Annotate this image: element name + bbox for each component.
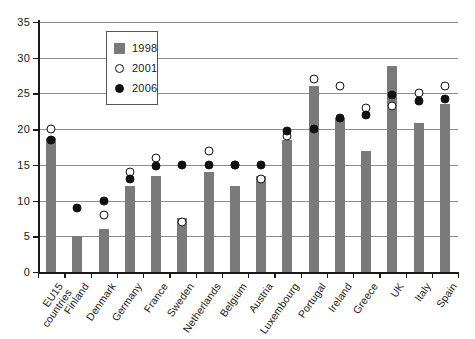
- filled-circle-marker: [388, 90, 397, 99]
- y-tick-mark: [33, 129, 38, 130]
- legend-item-1998: 1998: [114, 38, 151, 58]
- y-tick-mark: [33, 165, 38, 166]
- category-column: [327, 22, 353, 272]
- y-tick-label: 35: [17, 16, 30, 28]
- open-circle-marker: [178, 218, 187, 227]
- y-tick-label: 20: [17, 123, 30, 135]
- filled-circle-marker: [362, 110, 371, 119]
- legend-label: 2006: [132, 82, 157, 94]
- filled-circle-marker: [309, 125, 318, 134]
- open-circle-marker: [47, 125, 56, 134]
- category-column: [196, 22, 222, 272]
- category-column: [169, 22, 195, 272]
- bar: [335, 118, 345, 272]
- filled-circle-marker: [335, 114, 344, 123]
- bar: [256, 176, 266, 272]
- category-column: [222, 22, 248, 272]
- filled-circle-marker: [230, 160, 239, 169]
- y-tick-mark: [33, 93, 38, 94]
- filled-circle-marker: [283, 126, 292, 135]
- x-tick-mark: [379, 272, 380, 278]
- category-column: [64, 22, 90, 272]
- x-tick-label: UK: [389, 281, 406, 299]
- x-tick-mark: [274, 272, 275, 278]
- y-tick-mark: [33, 58, 38, 59]
- filled-circle-marker: [414, 96, 423, 105]
- bar: [282, 140, 292, 272]
- y-tick-label: 5: [24, 230, 30, 242]
- x-tick-mark: [117, 272, 118, 278]
- plot-area: [38, 22, 458, 272]
- open-circle-marker: [257, 175, 266, 184]
- chart-container: 05101520253035 EU15countriesFinlandDenma…: [0, 0, 475, 339]
- x-tick-mark: [196, 272, 197, 278]
- y-tick-label: 15: [17, 159, 30, 171]
- x-tick-label: Spain: [434, 281, 459, 310]
- category-column: [379, 22, 405, 272]
- legend-square-icon: [114, 43, 125, 54]
- filled-circle-marker: [125, 175, 134, 184]
- bar: [99, 229, 109, 272]
- legend-item-2001: 2001: [114, 58, 151, 78]
- bar: [440, 104, 450, 272]
- filled-circle-marker: [47, 135, 56, 144]
- legend-filled-circle-icon: [115, 84, 124, 93]
- x-tick-mark: [327, 272, 328, 278]
- filled-circle-marker: [178, 160, 187, 169]
- y-tick-mark: [33, 236, 38, 237]
- legend-label: 2001: [132, 62, 157, 74]
- category-column: [406, 22, 432, 272]
- filled-circle-marker: [99, 196, 108, 205]
- bar: [151, 176, 161, 272]
- open-circle-marker: [440, 82, 449, 91]
- bar: [204, 172, 214, 272]
- x-tick-mark: [406, 272, 407, 278]
- category-column: [432, 22, 458, 272]
- y-tick-label: 10: [17, 195, 30, 207]
- filled-circle-marker: [73, 203, 82, 212]
- x-tick-mark: [143, 272, 144, 278]
- x-tick-mark: [64, 272, 65, 278]
- x-tick-mark: [248, 272, 249, 278]
- filled-circle-marker: [440, 95, 449, 104]
- bar: [46, 138, 56, 272]
- category-column: [248, 22, 274, 272]
- y-axis-line: [38, 20, 40, 274]
- legend-label: 1998: [132, 42, 157, 54]
- bar: [361, 151, 371, 272]
- filled-circle-marker: [204, 160, 213, 169]
- x-tick-mark: [458, 272, 459, 278]
- bar: [309, 86, 319, 272]
- y-tick-label: 25: [17, 87, 30, 99]
- legend-open-circle-icon: [115, 64, 124, 73]
- x-tick-mark: [169, 272, 170, 278]
- filled-circle-marker: [152, 162, 161, 171]
- x-tick-mark: [38, 272, 39, 278]
- category-column: [274, 22, 300, 272]
- category-column: [38, 22, 64, 272]
- category-column: [353, 22, 379, 272]
- category-column: [301, 22, 327, 272]
- x-tick-mark: [432, 272, 433, 278]
- bar: [72, 236, 82, 272]
- open-circle-marker: [309, 75, 318, 84]
- x-tick-label-line: Spain: [434, 281, 459, 310]
- x-tick-mark: [91, 272, 92, 278]
- y-tick-mark: [33, 201, 38, 202]
- x-tick-label: Italy: [412, 281, 432, 304]
- open-circle-marker: [335, 82, 344, 91]
- y-tick-label: 30: [17, 52, 30, 64]
- open-circle-marker: [204, 146, 213, 155]
- bar: [414, 123, 424, 272]
- x-tick-mark: [353, 272, 354, 278]
- x-tick-mark: [301, 272, 302, 278]
- open-circle-marker: [388, 101, 397, 110]
- x-tick-label-line: Greece: [351, 281, 380, 316]
- y-tick-mark: [33, 22, 38, 23]
- legend-item-2006: 2006: [114, 78, 151, 98]
- open-circle-marker: [99, 210, 108, 219]
- x-tick-mark: [222, 272, 223, 278]
- x-tick-label-line: UK: [389, 281, 406, 299]
- y-tick-label: 0: [24, 266, 30, 278]
- x-tick-label: Greece: [351, 281, 380, 316]
